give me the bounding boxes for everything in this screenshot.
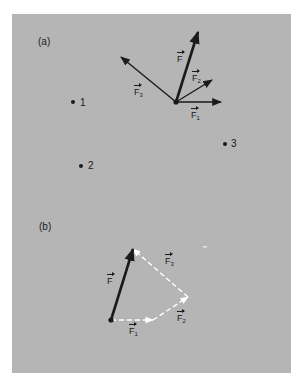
part-b-vectors xyxy=(108,246,207,323)
origin-dot-b xyxy=(108,317,113,322)
point-1-label: 1 xyxy=(80,98,86,108)
vector-f-a xyxy=(176,32,198,102)
white-speck xyxy=(203,246,207,248)
label-f3-b: F3 xyxy=(165,257,174,267)
vector-f-b xyxy=(111,249,133,320)
point-3-label: 3 xyxy=(231,139,237,149)
label-f-b: F xyxy=(107,277,113,286)
force-diagram xyxy=(0,0,305,383)
label-f2-a: F2 xyxy=(192,74,201,84)
label-f1-a: F1 xyxy=(191,111,200,121)
vector-f3-a xyxy=(121,57,176,102)
point-1-dot xyxy=(71,100,75,104)
part-b-label: (b) xyxy=(39,222,51,232)
point-2-dot xyxy=(79,164,83,168)
part-a-points xyxy=(71,100,227,168)
label-f2-b: F2 xyxy=(177,314,186,324)
point-2-label: 2 xyxy=(88,161,94,171)
point-3-dot xyxy=(223,142,227,146)
label-f1-b: F1 xyxy=(129,327,138,337)
origin-dot-a xyxy=(173,99,178,104)
part-a-label: (a) xyxy=(38,37,50,47)
vector-f3-b xyxy=(133,249,188,297)
label-f3-a: F3 xyxy=(134,88,143,98)
label-f-a: F xyxy=(177,55,183,64)
